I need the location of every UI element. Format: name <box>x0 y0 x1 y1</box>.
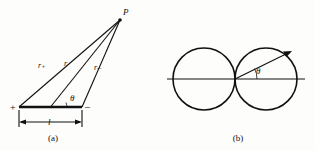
dim-arrowhead-left <box>19 119 26 124</box>
dim-arrowhead-right <box>75 119 82 124</box>
label-theta-panel-a: θ <box>70 93 75 103</box>
label-theta-panel-b: θ <box>256 66 261 76</box>
point-p-marker <box>118 18 122 22</box>
caption-panel-b: (b) <box>233 133 244 143</box>
radius-arrow-line <box>235 53 288 79</box>
figure-container: P + – r₊ r r– θ l (a) θ (b) <box>0 0 315 150</box>
panel-a-group: P + – r₊ r r– θ l (a) <box>10 7 129 143</box>
label-r-minus: r– <box>94 63 102 72</box>
caption-panel-a: (a) <box>48 133 58 143</box>
line-r <box>51 20 121 107</box>
physics-figure-svg: P + – r₊ r r– θ l (a) θ (b) <box>0 0 315 150</box>
label-r: r <box>64 59 68 68</box>
label-charge-negative: – <box>84 101 91 112</box>
label-point-p: P <box>122 7 129 17</box>
panel-b-group: θ (b) <box>167 48 305 143</box>
label-r-plus: r₊ <box>38 61 46 70</box>
label-charge-positive: + <box>10 102 16 113</box>
